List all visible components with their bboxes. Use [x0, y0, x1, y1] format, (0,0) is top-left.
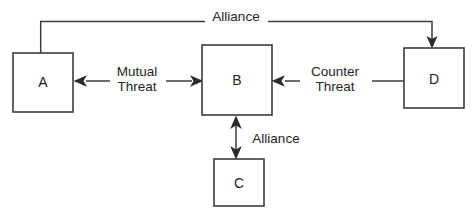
- node-d[interactable]: D: [404, 48, 464, 108]
- node-d-label: D: [429, 71, 439, 87]
- arrowhead-into-b-right: [272, 75, 286, 87]
- edge-label-counter-threat-line1: Counter: [311, 64, 360, 79]
- alliance-a-d-left-segment: [41, 22, 205, 54]
- arrowhead-into-a-right: [74, 75, 88, 87]
- diagram-canvas: Alliance Mutual Threat Counter Threat Al…: [0, 0, 474, 220]
- alliance-a-d-right-segment: [268, 22, 432, 42]
- edge-label-counter-threat-line2: Threat: [315, 79, 354, 94]
- node-c[interactable]: C: [214, 159, 264, 206]
- diagram-svg: Alliance Mutual Threat Counter Threat Al…: [0, 0, 474, 220]
- edge-alliance-b-c: Alliance: [230, 116, 299, 160]
- edge-counter-threat-d-b: Counter Threat: [272, 64, 405, 94]
- edge-label-mutual-threat-line2: Threat: [117, 79, 156, 94]
- node-b[interactable]: B: [202, 45, 272, 115]
- node-a-label: A: [38, 74, 48, 90]
- edge-label-alliance-a-d: Alliance: [212, 9, 259, 24]
- node-c-label: C: [234, 175, 244, 191]
- edge-mutual-threat-a-b: Mutual Threat: [74, 64, 204, 94]
- node-a[interactable]: A: [13, 53, 73, 112]
- node-b-label: B: [232, 72, 241, 88]
- edge-label-mutual-threat-line1: Mutual: [117, 64, 158, 79]
- edge-label-alliance-b-c: Alliance: [252, 131, 299, 146]
